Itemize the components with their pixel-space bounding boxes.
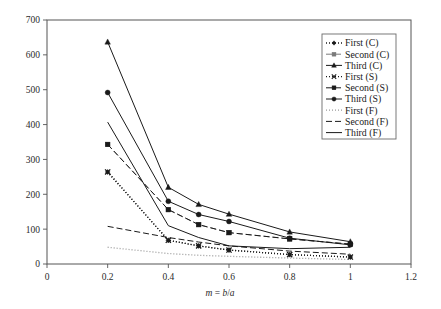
data-point-marker bbox=[105, 142, 110, 147]
x-axis-title-a: a bbox=[230, 288, 235, 298]
legend-label: Third (S) bbox=[345, 93, 381, 105]
frequency-vs-aspect-ratio-line-chart: 00.20.40.60.811.2 0100200300400500600700… bbox=[0, 0, 441, 309]
legend-label: Third (F) bbox=[345, 127, 381, 139]
legend-label: Second (F) bbox=[345, 116, 388, 128]
data-point-marker bbox=[105, 90, 110, 95]
x-tick-label: 0.2 bbox=[102, 272, 114, 282]
y-tick-label: 600 bbox=[26, 50, 41, 60]
svg-text:m = b/a: m = b/a bbox=[205, 288, 234, 298]
y-tick-label: 0 bbox=[35, 259, 40, 269]
data-point-marker bbox=[332, 52, 336, 56]
y-tick-label: 700 bbox=[26, 15, 41, 25]
data-point-marker bbox=[332, 97, 336, 101]
data-point-marker bbox=[166, 207, 171, 212]
y-tick-label: 500 bbox=[26, 85, 41, 95]
x-axis-title: m = b/a bbox=[205, 288, 234, 298]
data-point-marker bbox=[332, 86, 336, 90]
y-tick-label: 300 bbox=[26, 155, 41, 165]
x-tick-label: 0.4 bbox=[162, 272, 174, 282]
x-tick-label: 0.6 bbox=[223, 272, 235, 282]
figure-container: 00.20.40.60.811.2 0100200300400500600700… bbox=[0, 0, 441, 309]
chart-legend: First (C)Second (C)Third (C)First (S)Sec… bbox=[322, 34, 396, 139]
legend-label: First (C) bbox=[345, 37, 378, 49]
data-point-marker bbox=[348, 242, 353, 247]
x-tick-label: 0 bbox=[45, 272, 50, 282]
y-tick-label: 400 bbox=[26, 120, 41, 130]
legend-label: First (S) bbox=[345, 71, 377, 83]
x-axis-title-eq: = bbox=[212, 288, 222, 298]
x-tick-label: 0.8 bbox=[284, 272, 296, 282]
data-point-marker bbox=[196, 212, 201, 217]
y-tick-label: 100 bbox=[26, 225, 41, 235]
x-tick-label: 1 bbox=[348, 272, 353, 282]
legend-label: Second (S) bbox=[345, 82, 388, 94]
data-point-marker bbox=[227, 219, 232, 224]
data-point-marker bbox=[166, 199, 171, 204]
y-tick-label: 200 bbox=[26, 190, 41, 200]
data-point-marker bbox=[196, 222, 201, 227]
legend-label: First (F) bbox=[345, 105, 377, 117]
data-point-marker bbox=[227, 230, 232, 235]
legend-label: Third (C) bbox=[345, 60, 382, 72]
legend-label: Second (C) bbox=[345, 49, 389, 61]
data-point-marker bbox=[287, 236, 292, 241]
x-tick-label: 1.2 bbox=[405, 272, 417, 282]
